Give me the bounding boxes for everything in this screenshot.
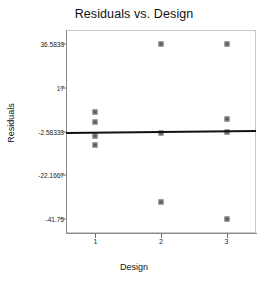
y-axis-tick-mark [60,219,66,220]
scatter-point [93,109,98,114]
x-axis-tick-mark [161,233,162,238]
scatter-point [93,142,98,147]
y-axis-tick-mark [60,88,66,89]
y-axis-tick-mark [60,44,66,45]
y-axis-tick-mark [60,175,66,176]
scatter-point [159,42,164,47]
scatter-point [224,42,229,47]
scatter-point [224,217,229,222]
x-axis-tick-label: 2 [159,238,163,245]
y-axis-title: Residuals [6,88,16,158]
scatter-point [93,119,98,124]
chart-title: Residuals vs. Design [0,7,268,21]
x-axis-tick-mark [95,233,96,238]
x-axis-tick-label: 1 [94,238,98,245]
x-axis-tick-mark [227,233,228,238]
scatter-point [159,199,164,204]
residuals-vs-design-chart: Residuals vs. Design 36.583317-2.58333-2… [0,0,268,288]
x-axis-tick-label: 3 [225,238,229,245]
scatter-point [224,117,229,122]
x-axis-title: Design [0,262,268,272]
scatter-point [93,133,98,138]
